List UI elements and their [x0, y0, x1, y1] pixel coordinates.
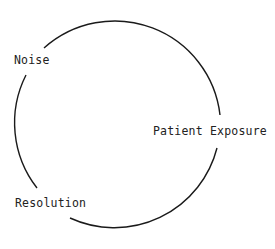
node-patient-exposure: Patient Exposure [153, 124, 267, 138]
arc-resolution-to-noise [15, 75, 37, 188]
node-resolution: Resolution [15, 196, 86, 210]
node-noise: Noise [14, 53, 50, 67]
arc-exposure-to-resolution [70, 148, 217, 228]
arc-noise-to-exposure [44, 21, 220, 115]
